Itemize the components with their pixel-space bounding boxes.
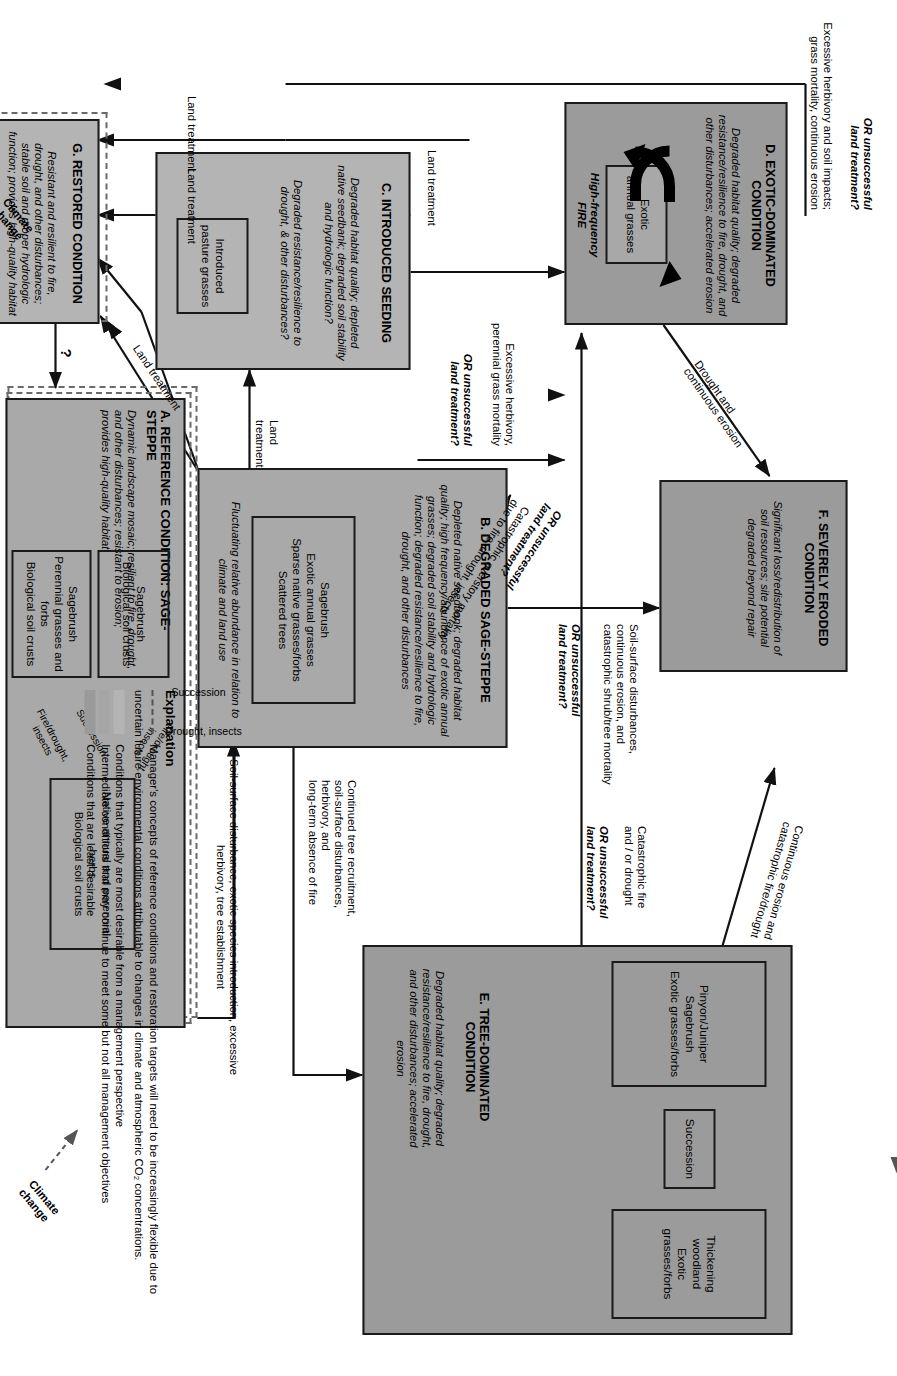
label-c-to-b-b: OR unsuccessful land treatment? — [447, 296, 473, 446]
label-treatment: treatment — [252, 420, 265, 500]
state-e-node-succession: Succession — [663, 1109, 715, 1189]
legend-item: Conditions that are least desirable — [83, 690, 98, 1330]
label-land-treatment-g2: Land treatment — [184, 168, 197, 278]
legend-item-text: Intermediate conditions that may continu… — [99, 744, 111, 1203]
label-a-to-b: Soil-surface disturbance, exotic species… — [213, 752, 239, 1082]
state-f-subtitle: Significant loss/redistribution of soil … — [744, 492, 783, 664]
legend-swatch-least-desirable — [84, 690, 95, 734]
state-e-node-right: Thickening woodland Exotic grasses/forbs — [611, 1209, 766, 1319]
state-e-subtitle: Degraded habitat quality; degraded resis… — [393, 961, 445, 1156]
state-c-subtitle: Degraded habitat quality; depleted nativ… — [321, 164, 360, 362]
legend-item: Conditions that typically are most desir… — [112, 690, 127, 1330]
legend-item: Intermediate conditions that may continu… — [97, 690, 112, 1330]
label-b-to-f-b: OR unsuccessful land treatment? — [555, 624, 581, 794]
state-e-title: E. TREE-DOMINATED CONDITION — [462, 967, 490, 1147]
state-box-f-severely-eroded[interactable]: F. SEVERELY ERODED CONDITION Significant… — [659, 480, 847, 672]
label-d-to-f-2: Excessive herbivory and soil impacts; gr… — [807, 20, 833, 210]
legend-item-text: Conditions that are least desirable — [84, 744, 96, 916]
label-b-to-f-a: Soil-surface disturbances, continuous er… — [600, 624, 639, 810]
state-a-node-left: Sagebrush Perennial grasses and forbs Bi… — [11, 550, 91, 678]
label-land-treatment-c-d: Land treatment — [424, 150, 437, 260]
legend: Explanation Manager's concepts of refere… — [83, 690, 177, 1330]
state-f-title: F. SEVERELY ERODED CONDITION — [801, 490, 829, 666]
legend-swatch-intermediate — [98, 690, 109, 734]
legend-heading: Explanation — [162, 690, 177, 1330]
label-c-to-b-a: Excessive herbivory, perennial grass mor… — [489, 296, 515, 446]
state-c-subtitle2: Degraded resistance/resilience to drough… — [277, 164, 303, 362]
state-g-title: G. RESTORED CONDITION — [69, 129, 83, 318]
diagram-canvas: D. EXOTIC-DOMINATED CONDITION Degraded h… — [0, 0, 897, 1376]
label-b-to-e: Continued tree recruitment, soil-surface… — [305, 780, 357, 990]
legend-dashed-swatch — [151, 690, 153, 734]
label-e-to-d-a: Catastrophic fire and / or drought — [621, 826, 647, 956]
fire-cycle-icon — [562, 104, 785, 327]
label-d-to-f-2b: OR unsuccessful land treatment? — [847, 20, 873, 210]
label-question-mark: ? — [57, 338, 74, 368]
diagram-rotated-container: D. EXOTIC-DOMINATED CONDITION Degraded h… — [0, 0, 897, 1376]
legend-item-text: Conditions that typically are most desir… — [113, 744, 125, 1127]
label-e-to-d-b: OR unsuccessful land treatment? — [583, 826, 609, 956]
legend-swatch-most-desirable — [113, 690, 124, 734]
state-b-node: Sagebrush Exotic annual grasses Sparse n… — [251, 516, 355, 704]
state-a-node-top: Sagebrush Biological soil crusts — [97, 550, 169, 678]
state-box-d-exotic-dominated[interactable]: D. EXOTIC-DOMINATED CONDITION Degraded h… — [564, 102, 787, 325]
label-land: Land — [266, 420, 279, 490]
legend-dashed-text: Manager's concepts of reference conditio… — [132, 690, 159, 1294]
state-c-title: C. INTRODUCED SEEDING — [378, 162, 392, 364]
